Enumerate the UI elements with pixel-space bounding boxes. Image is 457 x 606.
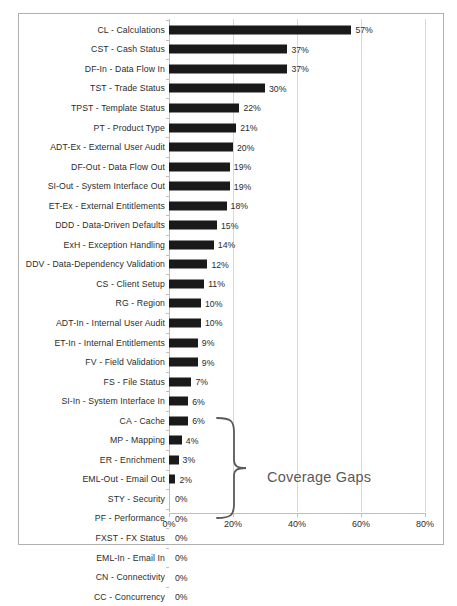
- category-tick: [166, 391, 169, 392]
- bar-row[interactable]: CL - Calculations57%: [19, 20, 443, 40]
- bar-row[interactable]: TST - Trade Status30%: [19, 79, 443, 99]
- bar[interactable]: [169, 240, 214, 249]
- bar-container: 11%: [169, 279, 225, 288]
- bar-row[interactable]: SI-In - System Interface In6%: [19, 391, 443, 411]
- category-label: DDD - Data-Driven Defaults: [55, 220, 165, 230]
- bar-value-label: 6%: [192, 396, 205, 406]
- bar-row[interactable]: FXST - FX Status0%: [19, 528, 443, 548]
- bar-row[interactable]: RG - Region10%: [19, 294, 443, 314]
- bar-row[interactable]: DDV - Data-Dependency Validation12%: [19, 255, 443, 275]
- bar[interactable]: [169, 143, 233, 152]
- bar-row[interactable]: ET-Ex - External Entitlements18%: [19, 196, 443, 216]
- category-tick: [166, 215, 169, 216]
- bar-value-label: 10%: [205, 318, 222, 328]
- category-label: SI-Out - System Interface Out: [48, 181, 165, 191]
- bar-row[interactable]: ExH - Exception Handling14%: [19, 235, 443, 255]
- bar[interactable]: [169, 377, 191, 386]
- category-label: EML-In - Email In: [96, 553, 165, 563]
- bar-row[interactable]: DF-In - Data Flow In37%: [19, 59, 443, 79]
- bar[interactable]: [169, 84, 265, 93]
- bar[interactable]: [169, 123, 236, 132]
- bar-row[interactable]: ET-In - Internal Entitlements9%: [19, 333, 443, 353]
- bar-container: 4%: [169, 436, 198, 445]
- bar[interactable]: [169, 436, 182, 445]
- bar[interactable]: [169, 318, 201, 327]
- bar[interactable]: [169, 64, 287, 73]
- plot-area: CL - Calculations57%CST - Cash Status37%…: [19, 14, 443, 544]
- bar-container: 37%: [169, 64, 309, 73]
- bar[interactable]: [169, 260, 207, 269]
- bar-container: 10%: [169, 299, 222, 308]
- bar[interactable]: [169, 182, 230, 191]
- bar-row[interactable]: CST - Cash Status37%: [19, 40, 443, 60]
- category-label: CST - Cash Status: [91, 44, 165, 54]
- bar-row[interactable]: DF-Out - Data Flow Out19%: [19, 157, 443, 177]
- bar-value-label: 2%: [179, 474, 192, 484]
- category-tick: [166, 235, 169, 236]
- category-tick: [166, 411, 169, 412]
- bar-row[interactable]: CC - Concurrency0%: [19, 587, 443, 606]
- bar-row[interactable]: FV - Field Validation9%: [19, 352, 443, 372]
- bar[interactable]: [169, 338, 198, 347]
- category-tick: [166, 509, 169, 510]
- bar[interactable]: [169, 299, 201, 308]
- bar-value-label: 22%: [243, 103, 260, 113]
- bar-container: 7%: [169, 377, 208, 386]
- bar-container: 20%: [169, 143, 254, 152]
- bar-row[interactable]: EML-Out - Email Out2%: [19, 470, 443, 490]
- bar-value-label: 7%: [195, 377, 208, 387]
- bar-row[interactable]: PT - Product Type21%: [19, 118, 443, 138]
- bar-container: 6%: [169, 397, 205, 406]
- category-tick: [166, 79, 169, 80]
- bar-value-label: 21%: [240, 123, 257, 133]
- bar-container: 57%: [169, 25, 373, 34]
- bar-value-label: 57%: [355, 25, 372, 35]
- x-axis-tick: [233, 513, 234, 517]
- bar-value-label: 19%: [234, 181, 251, 191]
- category-label: DF-Out - Data Flow Out: [71, 162, 165, 172]
- category-tick: [166, 20, 169, 21]
- bar-row[interactable]: TPST - Template Status22%: [19, 98, 443, 118]
- bar-value-label: 11%: [208, 279, 225, 289]
- bar[interactable]: [169, 475, 175, 484]
- bar-container: 6%: [169, 416, 205, 425]
- bar-row[interactable]: ER - Enrichment3%: [19, 450, 443, 470]
- bar-row[interactable]: FS - File Status7%: [19, 372, 443, 392]
- category-tick: [166, 59, 169, 60]
- category-tick: [166, 157, 169, 158]
- bar[interactable]: [169, 397, 188, 406]
- bar-row[interactable]: CN - Connectivity0%: [19, 567, 443, 587]
- bar[interactable]: [169, 103, 239, 112]
- category-label: TPST - Template Status: [71, 103, 165, 113]
- category-label: ExH - Exception Handling: [64, 240, 165, 250]
- bar-row[interactable]: ADT-Ex - External User Audit20%: [19, 137, 443, 157]
- bar[interactable]: [169, 221, 217, 230]
- bar[interactable]: [169, 455, 179, 464]
- category-tick: [166, 372, 169, 373]
- bar-row[interactable]: STY - Security0%: [19, 489, 443, 509]
- bar-row[interactable]: DDD - Data-Driven Defaults15%: [19, 215, 443, 235]
- bar-row[interactable]: SI-Out - System Interface Out19%: [19, 176, 443, 196]
- bar-container: 15%: [169, 221, 238, 230]
- bar-container: 21%: [169, 123, 258, 132]
- bar-value-label: 19%: [234, 162, 251, 172]
- bar-container: 30%: [169, 84, 286, 93]
- bar[interactable]: [169, 45, 287, 54]
- bar[interactable]: [169, 162, 230, 171]
- bar-row[interactable]: MP - Mapping4%: [19, 430, 443, 450]
- bar-container: 12%: [169, 260, 229, 269]
- x-axis-tick: [169, 513, 170, 517]
- bar[interactable]: [169, 416, 188, 425]
- bar-row[interactable]: CS - Client Setup11%: [19, 274, 443, 294]
- bar[interactable]: [169, 358, 198, 367]
- bar[interactable]: [169, 25, 351, 34]
- bar-row[interactable]: ADT-In - Internal User Audit10%: [19, 313, 443, 333]
- category-tick: [166, 118, 169, 119]
- bar-row[interactable]: CA - Cache6%: [19, 411, 443, 431]
- bar-value-label: 0%: [175, 494, 188, 504]
- bar-value-label: 3%: [183, 455, 196, 465]
- bar[interactable]: [169, 201, 227, 210]
- bar[interactable]: [169, 279, 204, 288]
- category-tick: [166, 313, 169, 314]
- bar-row[interactable]: EML-In - Email In0%: [19, 548, 443, 568]
